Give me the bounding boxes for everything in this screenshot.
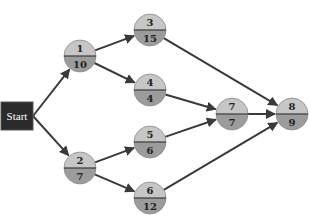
node-activity-label: 8 bbox=[289, 101, 296, 112]
node-4: 44 bbox=[134, 74, 166, 106]
node-activity-label: 1 bbox=[77, 43, 84, 54]
node-duration-label: 12 bbox=[143, 201, 157, 212]
edge-4-to-7 bbox=[165, 94, 215, 109]
node-7: 77 bbox=[216, 98, 248, 130]
activity-network-diagram: 1102731544566127789 Start bbox=[0, 0, 310, 220]
edge-start-to-1 bbox=[33, 69, 70, 116]
node-duration-label: 7 bbox=[77, 171, 84, 182]
node-3: 315 bbox=[134, 14, 166, 46]
node-6: 612 bbox=[134, 182, 166, 214]
edge-3-to-8 bbox=[164, 38, 278, 105]
edge-start-to-2 bbox=[33, 116, 69, 155]
node-activity-label: 2 bbox=[77, 155, 84, 166]
node-2: 27 bbox=[64, 152, 96, 184]
node-duration-label: 15 bbox=[143, 33, 157, 44]
edge-2-to-6 bbox=[95, 174, 135, 191]
edge-2-to-5 bbox=[95, 148, 134, 163]
node-5: 56 bbox=[134, 126, 166, 158]
node-duration-label: 4 bbox=[147, 93, 154, 104]
node-activity-label: 3 bbox=[147, 17, 154, 28]
edge-1-to-4 bbox=[94, 63, 134, 83]
node-8: 89 bbox=[276, 98, 308, 130]
node-duration-label: 7 bbox=[229, 117, 236, 128]
node-1: 110 bbox=[64, 40, 96, 72]
start-label: Start bbox=[7, 110, 28, 122]
edge-5-to-7 bbox=[165, 119, 216, 136]
node-activity-label: 6 bbox=[147, 185, 154, 196]
edge-1-to-3 bbox=[95, 36, 134, 51]
start-node: Start bbox=[1, 102, 33, 130]
node-duration-label: 6 bbox=[147, 145, 154, 156]
node-activity-label: 5 bbox=[147, 129, 154, 140]
node-activity-label: 7 bbox=[229, 101, 236, 112]
edge-6-to-8 bbox=[164, 123, 278, 190]
node-activity-label: 4 bbox=[147, 77, 154, 88]
node-duration-label: 10 bbox=[73, 59, 87, 70]
node-duration-label: 9 bbox=[289, 117, 296, 128]
